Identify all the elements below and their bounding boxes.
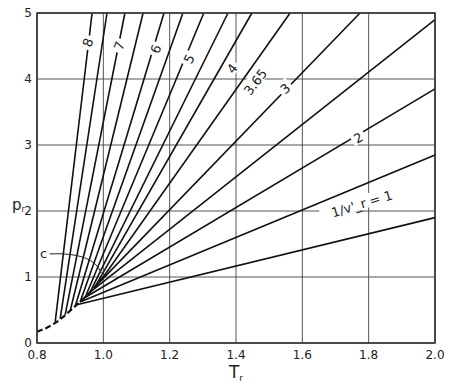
x-tick-label: 1.8	[359, 348, 378, 362]
y-tick-label: 4	[24, 72, 32, 86]
x-tick-label: 1.2	[160, 348, 179, 362]
y-tick-label: 0	[24, 336, 32, 350]
axis-ticks: 0.81.01.21.41.61.82.0012345	[24, 6, 444, 362]
line-label: 1/v'_r = 1	[329, 188, 394, 221]
y-tick-label: 3	[24, 138, 32, 152]
x-tick-label: 1.0	[94, 348, 113, 362]
x-tick-label: 2.0	[425, 348, 444, 362]
x-tick-label: 1.4	[226, 348, 245, 362]
y-tick-label: 1	[24, 270, 32, 284]
x-tick-label: 1.6	[293, 348, 312, 362]
grid-lines	[37, 13, 435, 343]
x-axis-label: Tr	[228, 362, 243, 383]
line-labels: c876543.65321/v'_r = 1	[39, 33, 405, 273]
y-axis-label: pr	[12, 196, 26, 214]
line-label: c	[40, 246, 47, 261]
isochore-lines	[55, 13, 435, 322]
chart-svg: 0.81.01.21.41.61.82.0012345 c876543.6532…	[0, 0, 451, 385]
x-tick-label: 0.8	[27, 348, 46, 362]
y-tick-label: 2	[24, 204, 32, 218]
y-tick-label: 5	[24, 6, 32, 20]
reduced-pressure-temperature-chart: 0.81.01.21.41.61.82.0012345 c876543.6532…	[0, 0, 451, 385]
isochore-line-1.5	[80, 155, 435, 302]
isochore-line-2.5	[90, 20, 435, 293]
